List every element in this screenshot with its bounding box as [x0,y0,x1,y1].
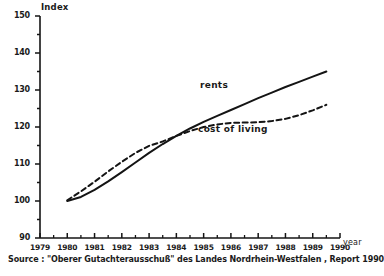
series-label-cost-of-living: cost of living [198,124,268,134]
series-path-rents [67,72,326,202]
series-paths [67,72,326,202]
series-label-rents: rents [200,80,228,90]
series-path-cost-of-living [67,105,326,200]
axis-lines [35,16,340,238]
source-caption: Source : "Oberer Gutachterausschuß" des … [8,255,384,264]
